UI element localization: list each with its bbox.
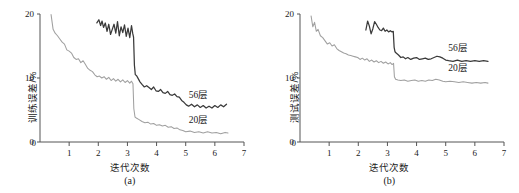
x-tick-label: 7 xyxy=(242,148,247,158)
x-tick-label: 3 xyxy=(125,148,130,158)
x-tick-label: 1 xyxy=(326,148,331,158)
x-tick-label: 5 xyxy=(443,148,448,158)
chart-b-ylabel: 测试误差/% xyxy=(286,71,300,122)
x-tick-label: 2 xyxy=(356,148,361,158)
chart-a-annotation-20: 20层 xyxy=(189,112,209,126)
figure-container: 0102001234567 训练误差/% 迭代次数 (a) 56层 20层 01… xyxy=(0,0,519,193)
chart-a-ylabel: 训练误差/% xyxy=(25,71,39,122)
x-tick-label: 4 xyxy=(414,148,419,158)
x-tick-label: 0 xyxy=(32,138,37,148)
chart-panel-a: 0102001234567 训练误差/% 迭代次数 (a) 56层 20层 xyxy=(0,0,260,193)
chart-b-annotation-56: 56层 xyxy=(448,40,468,54)
x-tick-label: 3 xyxy=(385,148,390,158)
x-tick-label: 6 xyxy=(472,148,477,158)
axis-lines xyxy=(40,14,244,142)
y-tick-label: 20 xyxy=(285,9,295,19)
chart-b-xlabel: 迭代次数 xyxy=(260,160,519,174)
axis-lines xyxy=(300,14,504,142)
x-tick-label: 4 xyxy=(154,148,159,158)
x-tick-label: 5 xyxy=(183,148,188,158)
chart-a-xlabel: 迭代次数 xyxy=(0,160,260,174)
x-tick-label: 6 xyxy=(213,148,218,158)
chart-a-svg: 0102001234567 xyxy=(0,0,259,160)
y-tick-label: 20 xyxy=(25,9,35,19)
x-tick-label: 7 xyxy=(501,148,506,158)
chart-b-annotation-20: 20层 xyxy=(448,60,468,74)
x-tick-label: 2 xyxy=(96,148,101,158)
series-line-56层 xyxy=(365,21,487,61)
chart-a-annotation-56: 56层 xyxy=(189,87,209,101)
chart-a-caption: (a) xyxy=(0,175,260,186)
x-tick-label: 0 xyxy=(291,138,296,148)
chart-panel-b: 0102001234567 测试误差/% 迭代次数 (b) 56层 20层 xyxy=(260,0,519,193)
chart-b-caption: (b) xyxy=(260,175,519,186)
x-tick-label: 1 xyxy=(67,148,72,158)
